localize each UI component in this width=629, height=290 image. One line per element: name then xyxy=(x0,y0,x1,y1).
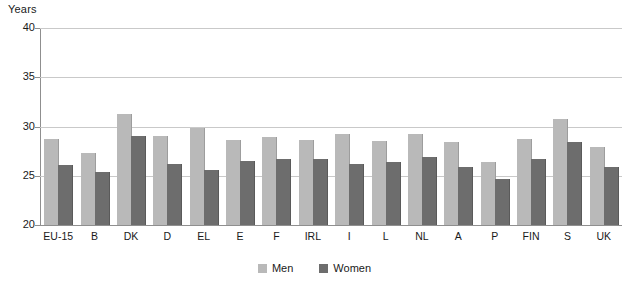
bar-fin-men xyxy=(517,139,532,225)
x-axis-tick-label: F xyxy=(258,230,294,242)
bar-irl-men xyxy=(299,140,314,225)
bar-eu-15-men xyxy=(44,139,59,225)
x-axis-tick-label: IRL xyxy=(295,230,331,242)
x-axis-tick-label: EU-15 xyxy=(40,230,76,242)
x-axis-tick-label: UK xyxy=(586,230,622,242)
x-axis-tick-label: S xyxy=(549,230,585,242)
x-axis-tick-label: I xyxy=(331,230,367,242)
bar-f-women xyxy=(276,159,291,225)
y-axis-tick-label: 40 xyxy=(7,21,35,33)
legend-swatch-icon xyxy=(258,264,267,273)
x-axis-tick-label: P xyxy=(477,230,513,242)
bar-nl-men xyxy=(408,134,423,225)
bar-uk-women xyxy=(604,167,619,225)
y-axis-tick-label: 35 xyxy=(7,70,35,82)
plot-area xyxy=(40,28,622,225)
chart-legend: MenWomen xyxy=(0,262,629,274)
legend-label: Men xyxy=(272,262,293,274)
bar-dk-men xyxy=(117,114,132,225)
legend-item-men[interactable]: Men xyxy=(258,262,293,274)
x-axis-tick-labels: EU-15BDKDELEFIRLILNLAPFINSUK xyxy=(40,230,622,248)
bar-b-men xyxy=(81,153,96,225)
bar-fin-women xyxy=(531,159,546,225)
bar-dk-women xyxy=(131,136,146,225)
legend-label: Women xyxy=(333,262,371,274)
bar-s-men xyxy=(553,119,568,225)
bar-d-women xyxy=(167,164,182,225)
y-axis-tick-label: 20 xyxy=(7,218,35,230)
bar-p-women xyxy=(495,179,510,225)
bar-el-women xyxy=(204,170,219,225)
bar-l-women xyxy=(386,162,401,225)
y-axis-tick-label: 30 xyxy=(7,120,35,132)
x-axis-tick-label: B xyxy=(76,230,112,242)
x-axis-tick-label: DK xyxy=(113,230,149,242)
bar-a-men xyxy=(444,142,459,225)
x-axis-tick-label: EL xyxy=(186,230,222,242)
bar-chart: Years 2025303540 EU-15BDKDELEFIRLILNLAPF… xyxy=(0,0,629,290)
legend-swatch-icon xyxy=(319,264,328,273)
bar-nl-women xyxy=(422,157,437,225)
bar-e-women xyxy=(240,161,255,225)
x-axis-tick-label: A xyxy=(440,230,476,242)
bar-irl-women xyxy=(313,159,328,225)
x-axis-tick-label: D xyxy=(149,230,185,242)
bars-layer xyxy=(40,28,622,225)
y-axis-tick-label: 25 xyxy=(7,169,35,181)
bar-b-women xyxy=(95,172,110,225)
axis-baseline xyxy=(40,225,622,226)
bar-f-men xyxy=(262,137,277,225)
x-axis-tick-label: E xyxy=(222,230,258,242)
bar-e-men xyxy=(226,140,241,225)
bar-uk-men xyxy=(590,147,605,225)
bar-i-men xyxy=(335,134,350,225)
bar-eu-15-women xyxy=(58,165,73,225)
bar-l-men xyxy=(372,141,387,225)
bar-d-men xyxy=(153,136,168,225)
bar-p-men xyxy=(481,162,496,225)
legend-item-women[interactable]: Women xyxy=(319,262,371,274)
x-axis-tick-label: L xyxy=(367,230,403,242)
x-axis-tick-label: FIN xyxy=(513,230,549,242)
bar-s-women xyxy=(567,142,582,225)
bar-el-men xyxy=(190,128,205,225)
x-axis-tick-label: NL xyxy=(404,230,440,242)
bar-i-women xyxy=(349,164,364,225)
bar-a-women xyxy=(458,167,473,225)
